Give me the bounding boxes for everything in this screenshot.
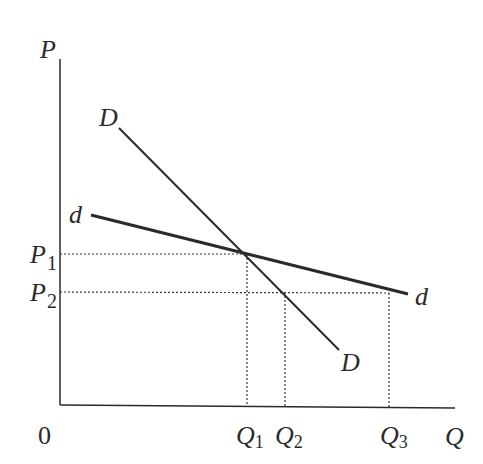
curve-d-label-left: d xyxy=(69,200,83,229)
x-axis-label: Q xyxy=(445,422,464,451)
demand-curve-d xyxy=(91,215,408,294)
q3-label: Q3 xyxy=(380,421,408,452)
curve-D-label-bottom: D xyxy=(340,348,360,377)
curve-D-label-top: D xyxy=(98,103,118,132)
demand-curve-D xyxy=(119,128,339,350)
p1-label: P1 xyxy=(29,240,57,274)
p2-label: P2 xyxy=(29,278,57,312)
x-axis xyxy=(60,405,455,408)
origin-label: 0 xyxy=(38,421,51,450)
curve-d-label-right: d xyxy=(415,282,429,311)
q2-label: Q2 xyxy=(275,421,303,452)
q1-label: Q1 xyxy=(236,421,264,452)
p2-guide xyxy=(60,292,389,293)
y-axis-label: P xyxy=(39,35,56,64)
demand-diagram: P Q 0 D D d d P1 P2 Q1 Q2 Q3 xyxy=(0,0,483,464)
